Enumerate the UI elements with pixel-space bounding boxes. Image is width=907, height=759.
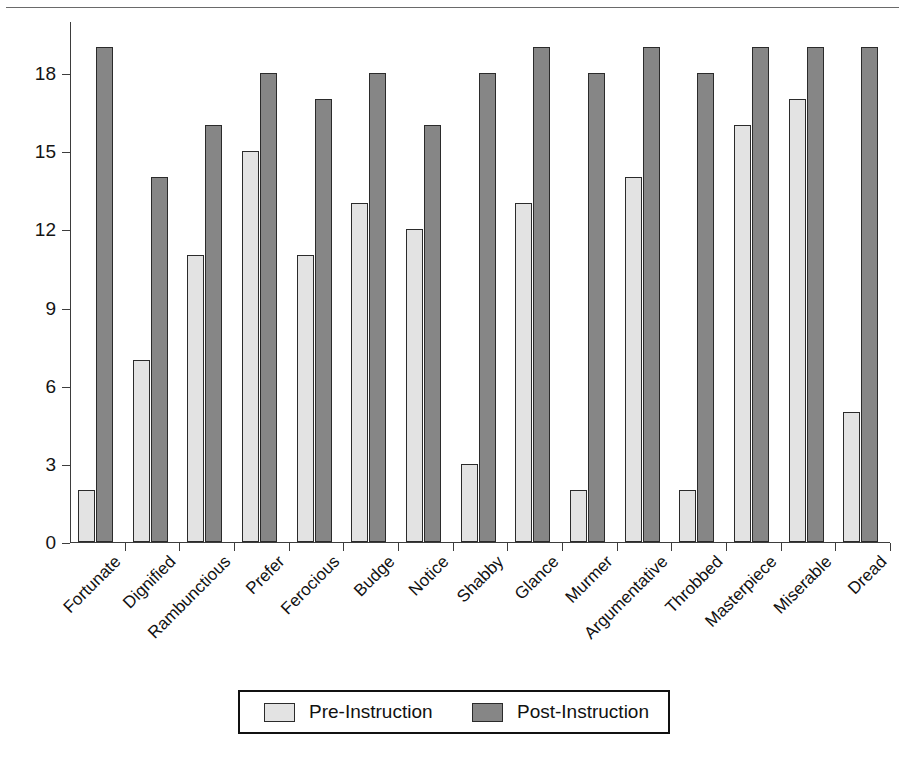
x-axis-category-label: Budge [350, 552, 399, 601]
bar-post-instruction [807, 47, 824, 542]
bar-pre-instruction [351, 203, 368, 542]
x-tick-mark [234, 543, 235, 551]
legend-label-post: Post-Instruction [517, 701, 649, 723]
legend-swatch-icon-post [472, 703, 503, 722]
y-tick-label: 12 [16, 219, 56, 241]
bar-post-instruction [643, 47, 660, 542]
y-tick-label: 15 [16, 141, 56, 163]
x-axis-labels: FortunateDignifiedRambunctiousPreferFero… [70, 552, 890, 672]
bar-post-instruction [479, 73, 496, 542]
y-tick-label: 3 [16, 454, 56, 476]
x-axis-category-label: Notice [405, 552, 453, 600]
bar-pre-instruction [406, 229, 423, 542]
y-tick-mark [62, 543, 70, 544]
y-tick-label: 9 [16, 298, 56, 320]
bar-post-instruction [861, 47, 878, 542]
legend-swatch-icon-pre [264, 703, 295, 722]
x-tick-mark [507, 543, 508, 551]
bar-pre-instruction [133, 360, 150, 542]
page-title-sliver [0, 0, 907, 6]
x-tick-mark [890, 543, 891, 551]
bar-post-instruction [151, 177, 168, 542]
bar-post-instruction [752, 47, 769, 542]
header-divider [6, 7, 899, 8]
x-tick-mark [835, 543, 836, 551]
bar-post-instruction [315, 99, 332, 542]
y-tick-mark [62, 387, 70, 388]
x-axis-category-label: Ferocious [277, 552, 344, 619]
bar-post-instruction [96, 47, 113, 542]
x-axis-line [70, 542, 890, 543]
plot-area: 0369121518 [70, 22, 890, 543]
bar-pre-instruction [734, 125, 751, 542]
legend-label-pre: Pre-Instruction [309, 701, 433, 723]
bar-pre-instruction [187, 255, 204, 542]
bar-post-instruction [424, 125, 441, 542]
x-tick-mark [453, 543, 454, 551]
bar-post-instruction [697, 73, 714, 542]
chart-legend: Pre-Instruction Post-Instruction [238, 690, 670, 734]
y-tick-mark [62, 152, 70, 153]
bar-pre-instruction [78, 490, 95, 542]
x-tick-mark [726, 543, 727, 551]
bar-pre-instruction [242, 151, 259, 542]
y-tick-label: 6 [16, 376, 56, 398]
x-axis-category-label: Fortunate [60, 552, 126, 618]
y-tick-label: 0 [16, 532, 56, 554]
y-tick-mark [62, 230, 70, 231]
bar-post-instruction [533, 47, 550, 542]
x-axis-category-label: Glance [511, 552, 563, 604]
x-axis-category-label: Prefer [243, 552, 290, 599]
bar-pre-instruction [515, 203, 532, 542]
legend-item-post-instruction: Post-Instruction [472, 701, 649, 723]
x-tick-mark [289, 543, 290, 551]
x-tick-mark [125, 543, 126, 551]
y-tick-mark [62, 465, 70, 466]
bar-post-instruction [260, 73, 277, 542]
bar-pre-instruction [789, 99, 806, 542]
bar-pre-instruction [461, 464, 478, 542]
y-tick-mark [62, 74, 70, 75]
bar-post-instruction [588, 73, 605, 542]
x-tick-mark [562, 543, 563, 551]
x-axis-category-label: Miserable [770, 552, 836, 618]
y-axis-line [70, 22, 71, 543]
bar-pre-instruction [843, 412, 860, 542]
y-tick-mark [62, 309, 70, 310]
chart-page: 0369121518 FortunateDignifiedRambunctiou… [0, 0, 907, 759]
x-tick-mark [781, 543, 782, 551]
legend-item-pre-instruction: Pre-Instruction [264, 701, 433, 723]
x-tick-mark [398, 543, 399, 551]
x-tick-mark [343, 543, 344, 551]
x-tick-mark [671, 543, 672, 551]
x-tick-mark [179, 543, 180, 551]
bar-post-instruction [205, 125, 222, 542]
bar-pre-instruction [679, 490, 696, 542]
bar-pre-instruction [297, 255, 314, 542]
bar-post-instruction [369, 73, 386, 542]
x-axis-category-label: Shabby [453, 552, 508, 607]
x-axis-category-label: Dread [844, 552, 891, 599]
bar-pre-instruction [570, 490, 587, 542]
y-tick-label: 18 [16, 63, 56, 85]
bar-pre-instruction [625, 177, 642, 542]
x-tick-mark [617, 543, 618, 551]
